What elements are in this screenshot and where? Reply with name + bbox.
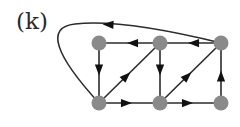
graph-node-tm (153, 36, 168, 51)
arrowhead-icon (127, 39, 138, 47)
graph-edges (58, 23, 221, 103)
arrowhead-icon (156, 65, 164, 76)
arrowhead-icon (188, 39, 199, 47)
graph-node-bm (153, 96, 168, 111)
directed-graph (0, 0, 240, 127)
arrowhead-icon (217, 71, 225, 82)
arrowhead-icon (182, 99, 193, 107)
arrowhead-icon (121, 99, 132, 107)
arrowhead-icon (95, 65, 103, 76)
arrowhead-icon (103, 21, 114, 29)
graph-node-bl (92, 96, 107, 111)
graph-node-tr (214, 36, 229, 51)
graph-node-tl (92, 36, 107, 51)
graph-node-br (214, 96, 229, 111)
